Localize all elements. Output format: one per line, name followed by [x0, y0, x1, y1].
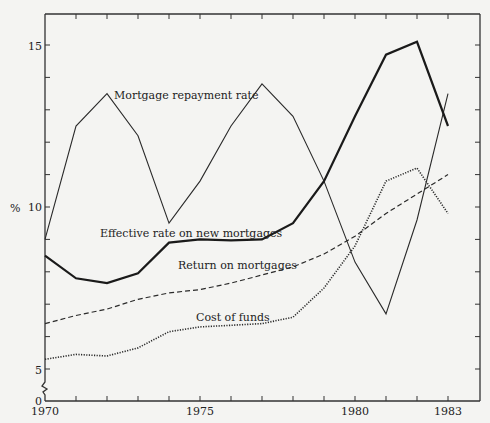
y-tick-15: 15: [28, 40, 42, 53]
axis-ticks: [45, 14, 480, 401]
series-mortgage-repayment-rate: [45, 84, 448, 314]
series-return-on-mortgages: [45, 175, 448, 324]
x-tick-1980: 1980: [341, 405, 369, 418]
line-chart: 15 10 5 0 % 1970 1975 1980 1983 Mortgage…: [0, 0, 490, 423]
x-tick-1975: 1975: [186, 405, 214, 418]
x-tick-1970: 1970: [31, 405, 59, 418]
label-return-on-mortgages: Return on mortgages: [178, 259, 297, 272]
plot-frame: [42, 14, 480, 401]
x-tick-labels: 1970 1975 1980 1983: [31, 405, 462, 418]
y-tick-10: 10: [28, 201, 42, 214]
label-mortgage-repayment-rate: Mortgage repayment rate: [114, 89, 258, 102]
series-effective-rate: [45, 42, 448, 283]
y-tick-5: 5: [35, 364, 42, 377]
x-tick-1983: 1983: [434, 405, 462, 418]
y-axis-label: %: [10, 202, 20, 215]
label-cost-of-funds: Cost of funds: [196, 311, 270, 324]
label-effective-rate: Effective rate on new mortgages: [100, 227, 283, 240]
y-tick-labels: 15 10 5 0: [28, 40, 42, 408]
